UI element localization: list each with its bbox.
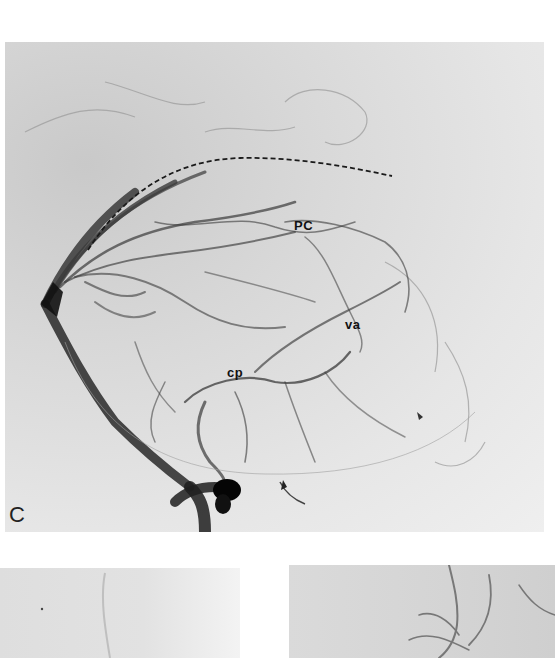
label-pc: PC: [294, 218, 313, 233]
angiogram-panel-bottom-left: [0, 568, 240, 658]
vessel-drawing-right: [289, 565, 555, 658]
label-va: va: [345, 317, 360, 332]
angiogram-panel-c: PC va cp C: [5, 42, 544, 532]
angiogram-panel-bottom-right: [289, 565, 555, 658]
vessel-drawing: [5, 42, 544, 532]
label-cp: cp: [227, 365, 243, 380]
faint-vessel-drawing: [0, 568, 240, 658]
panel-letter: C: [9, 502, 25, 528]
